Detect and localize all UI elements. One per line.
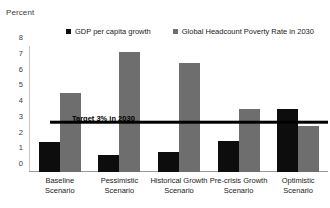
legend-swatch-poverty — [173, 29, 178, 34]
legend-swatch-gdp — [66, 29, 71, 34]
x-axis-label: Pre-crisis Growth Scenario — [209, 174, 269, 206]
y-axis-tick: 0 — [19, 159, 23, 168]
y-axis-title: Percent — [6, 8, 34, 17]
y-axis-tick: 3 — [19, 111, 23, 120]
legend-label-poverty: Global Headcount Poverty Rate in 2030 — [182, 27, 314, 36]
x-axis-label: Optimistic Scenario — [268, 174, 328, 206]
y-axis-tick: 4 — [19, 96, 23, 105]
bar-groups — [30, 46, 328, 172]
y-axis-tick: 6 — [19, 64, 23, 73]
bar-poverty-rate — [60, 93, 81, 172]
bar-poverty-rate — [179, 63, 200, 172]
bar-group — [268, 46, 328, 172]
x-axis-label: Pessimistic Scenario — [90, 174, 150, 206]
bar-gdp-per-capita-growth — [158, 152, 179, 172]
x-axis-label: Baseline Scenario — [30, 174, 90, 206]
legend-item-poverty: Global Headcount Poverty Rate in 2030 — [173, 27, 314, 36]
bar-chart: Percent GDP per capita growth Global Hea… — [0, 0, 330, 208]
bar-poverty-rate — [239, 109, 260, 172]
y-axis-tick: 1 — [19, 143, 23, 152]
y-axis-tick: 2 — [19, 127, 23, 136]
bar-group — [209, 46, 269, 172]
y-axis-tick: 5 — [19, 80, 23, 89]
bar-gdp-per-capita-growth — [39, 142, 60, 172]
plot-area: Target 3% in 2030 — [30, 46, 328, 172]
legend-item-gdp: GDP per capita growth — [66, 27, 151, 36]
x-axis-label: Historical Growth Scenario — [149, 174, 209, 206]
chart-legend: GDP per capita growth Global Headcount P… — [66, 27, 314, 36]
y-axis-tick: 7 — [19, 48, 23, 57]
target-line-label: Target 3% in 2030 — [72, 114, 135, 123]
bar-gdp-per-capita-growth — [218, 141, 239, 173]
bar-group — [149, 46, 209, 172]
y-axis-tick: 8 — [19, 33, 23, 42]
bar-poverty-rate — [119, 52, 140, 172]
bar-poverty-rate — [298, 126, 319, 172]
legend-label-gdp: GDP per capita growth — [75, 27, 151, 36]
bar-gdp-per-capita-growth — [98, 155, 119, 172]
bar-group — [90, 46, 150, 172]
x-axis-labels: Baseline ScenarioPessimistic ScenarioHis… — [30, 174, 328, 206]
bar-gdp-per-capita-growth — [277, 109, 298, 172]
bar-group — [30, 46, 90, 172]
y-axis: 012345678 — [0, 46, 30, 172]
